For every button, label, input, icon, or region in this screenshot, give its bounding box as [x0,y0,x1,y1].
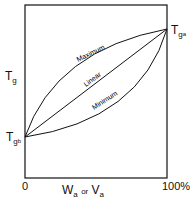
x-axis-label: Wa or Va [62,184,104,196]
tga-label: Tga [171,24,186,36]
tgb-label: Tgb [6,131,21,143]
y-axis-label: Tg [5,70,17,82]
linear-line [25,29,167,137]
maximum-label: Maximum [75,43,105,63]
x-tick-zero: 0 [22,181,28,192]
x-tick-hundred: 100% [162,181,190,192]
minimum-label: Minimum [91,89,119,110]
diagram-canvas: Maximum Linear Minimum [0,0,192,198]
plot-frame [25,5,167,178]
